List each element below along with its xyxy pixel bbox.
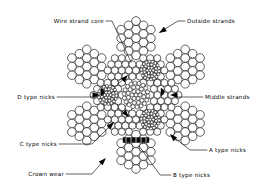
- wire: [196, 119, 205, 128]
- wire: [168, 104, 175, 111]
- core-wire: [145, 110, 148, 113]
- core-wire: [124, 100, 128, 104]
- core-wire: [115, 91, 118, 94]
- wire: [196, 128, 205, 137]
- core-wire: [126, 91, 130, 95]
- core-wire: [158, 119, 161, 122]
- wire: [124, 160, 133, 169]
- core-wire: [142, 91, 146, 95]
- wire: [196, 111, 205, 120]
- core-wire: [140, 71, 143, 74]
- core-wire: [147, 116, 150, 119]
- wire: [75, 67, 84, 76]
- outside-strand: [117, 17, 155, 60]
- core-wire: [143, 71, 146, 74]
- wire: [188, 106, 197, 115]
- core-wire: [146, 94, 150, 98]
- wire: [181, 62, 190, 71]
- wire: [90, 132, 99, 141]
- label-wire-strand-core: Wire strand core: [54, 18, 104, 24]
- core-wire: [131, 105, 135, 109]
- wire: [124, 30, 133, 39]
- wire: [139, 47, 148, 56]
- wire: [125, 128, 132, 135]
- wire: [147, 156, 156, 165]
- label-d-type-nicks: D type nicks: [17, 94, 55, 101]
- wire: [181, 54, 190, 63]
- wire: [181, 80, 190, 89]
- core-wire: [112, 92, 115, 95]
- wire: [75, 49, 84, 58]
- wire: [117, 156, 126, 165]
- wire: [75, 123, 84, 132]
- wire: [83, 111, 92, 120]
- wire: [83, 54, 92, 63]
- core-wire: [132, 90, 136, 94]
- core-wire: [141, 74, 144, 77]
- core-wire: [135, 105, 139, 109]
- wire: [117, 25, 126, 34]
- wire: [68, 111, 77, 120]
- wire: [173, 67, 182, 76]
- core-wire: [157, 116, 160, 119]
- wire: [173, 115, 182, 124]
- core-wire: [157, 67, 160, 70]
- wire: [124, 38, 133, 47]
- core-wire: [156, 64, 159, 67]
- core-wire: [156, 113, 159, 116]
- wire: [132, 25, 141, 34]
- wire: [118, 128, 125, 135]
- core-wire: [113, 88, 116, 91]
- core-wire: [154, 67, 157, 70]
- wire: [139, 21, 148, 30]
- wire: [139, 38, 148, 47]
- core-wire: [99, 99, 102, 102]
- wire: [118, 55, 125, 62]
- core-wire: [144, 86, 148, 90]
- core-wire: [115, 94, 118, 97]
- wire: [75, 106, 84, 115]
- wire: [124, 152, 133, 161]
- wire: [181, 128, 190, 137]
- wire: [181, 111, 190, 120]
- wire: [124, 143, 133, 152]
- core-wire: [104, 102, 107, 105]
- core-wire: [146, 78, 149, 81]
- wire: [117, 148, 126, 157]
- wire: [173, 49, 182, 58]
- wire: [188, 123, 197, 132]
- wire: [132, 34, 141, 43]
- wire: [161, 104, 168, 111]
- wire: [188, 58, 197, 67]
- wire: [83, 62, 92, 71]
- wire: [132, 51, 141, 60]
- core-wire: [149, 78, 152, 81]
- core-wire: [148, 60, 151, 63]
- wire: [90, 67, 99, 76]
- wire: [161, 79, 168, 86]
- wire: [83, 102, 92, 111]
- wire: [181, 102, 190, 111]
- wire: [188, 49, 197, 58]
- wire: [83, 136, 92, 145]
- core-wire: [108, 96, 111, 99]
- outside-strand: [117, 130, 155, 173]
- wire: [166, 54, 175, 63]
- wire: [75, 132, 84, 141]
- label-outside-strands: Outside strands: [187, 18, 235, 24]
- wire: [147, 43, 156, 52]
- core-wire: [142, 95, 146, 99]
- wire: [132, 148, 141, 157]
- wire: [68, 119, 77, 128]
- wire: [83, 128, 92, 137]
- core-wire: [105, 91, 108, 94]
- wire: [147, 148, 156, 157]
- wire: [68, 71, 77, 80]
- wire: [147, 25, 156, 34]
- wire: [139, 30, 148, 39]
- core-wire: [150, 121, 153, 124]
- wire: [97, 128, 106, 137]
- core-wire: [132, 101, 136, 105]
- wire: [132, 43, 141, 52]
- wire: [124, 21, 133, 30]
